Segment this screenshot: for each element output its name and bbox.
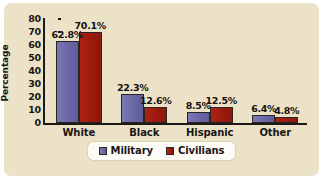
x-axis-category-label: Black	[129, 127, 159, 138]
y-tick-label: 20	[28, 92, 41, 102]
legend-swatch-military-icon	[99, 147, 107, 155]
chart-legend: Military Civilians	[88, 142, 236, 160]
x-axis-line	[43, 123, 307, 125]
legend-item-civilians[interactable]: Civilians	[166, 145, 225, 156]
y-tick-label: 60	[28, 40, 41, 50]
bar-value-label: 22.3%	[117, 83, 148, 93]
bar-black-civilians[interactable]	[144, 107, 167, 123]
legend-swatch-civilians-icon	[166, 147, 174, 155]
y-tick-label: 30	[28, 79, 41, 89]
bar-value-label: 4.8%	[274, 106, 299, 116]
bar-value-label: 62.8%	[52, 30, 83, 40]
legend-label-military: Military	[111, 145, 153, 156]
y-tick-label: 70	[28, 27, 41, 37]
x-axis-category-label: Other	[259, 127, 291, 138]
bar-value-label: 70.1%	[75, 21, 106, 31]
y-tick-label: 10	[28, 105, 41, 115]
bar-other-civilians[interactable]	[275, 117, 298, 123]
chart-panel: Percentage 01020304050607080 Military Ci…	[4, 3, 319, 176]
y-axis-tick-labels: 01020304050607080	[19, 3, 41, 182]
y-axis-title: Percentage	[0, 33, 10, 113]
bar-hispanic-military[interactable]	[187, 112, 210, 123]
y-tick-label: 40	[28, 66, 41, 76]
bar-hispanic-civilians[interactable]	[210, 107, 233, 123]
bar-other-military[interactable]	[252, 115, 275, 123]
bar-white-civilians[interactable]	[79, 32, 102, 123]
y-tick-label: 80	[28, 14, 41, 24]
bar-value-label: 12.5%	[206, 96, 237, 106]
y-tick-label: 0	[35, 118, 41, 128]
y-tick-label: 50	[28, 53, 41, 63]
bar-value-label: 12.6%	[140, 96, 171, 106]
bar-white-military[interactable]	[56, 41, 79, 123]
x-axis-category-label: Hispanic	[186, 127, 233, 138]
legend-item-military[interactable]: Military	[99, 145, 153, 156]
x-axis-category-label: White	[62, 127, 95, 138]
bar-value-label: 6.4%	[251, 104, 276, 114]
legend-label-civilians: Civilians	[178, 145, 225, 156]
